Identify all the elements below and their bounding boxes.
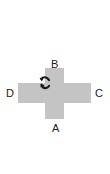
label-left: D — [6, 88, 14, 99]
rotation-arrows-icon — [38, 75, 52, 91]
cross-horizontal-bar — [18, 83, 91, 103]
label-bottom: A — [52, 123, 59, 134]
label-right: C — [95, 88, 103, 99]
label-top: B — [51, 59, 58, 70]
